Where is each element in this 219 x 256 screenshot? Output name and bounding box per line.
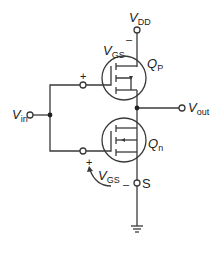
qp-gate [86,66,111,85]
qn-gate [86,131,111,151]
source-terminal[interactable] [134,180,140,186]
qp-gate-terminal[interactable] [80,82,86,88]
vout-terminal[interactable] [179,105,185,111]
qp-label: QP [147,56,163,73]
output-junction-dot [135,106,140,111]
minus-top-label: – [126,33,133,45]
qn-label: Qn [148,136,163,153]
vgs-bottom-label: VGS [98,168,120,185]
ground-icon [131,226,143,232]
qn-gate-terminal[interactable] [80,148,86,154]
plus-bottom-label: + [86,156,92,168]
cmos-inverter-diagram: VDD – VGS QP + Vout Vin Qn + VGS – S [0,0,219,256]
source-label: S [142,176,151,191]
plus-top-label: + [80,70,86,82]
input-junction-dot [48,113,53,118]
vdd-label: VDD [129,10,151,27]
vin-terminal[interactable] [27,112,33,118]
input-rail [50,85,80,151]
vout-label: Vout [188,100,210,117]
qn-arrow-icon [121,138,125,142]
vin-label: Vin [12,107,28,124]
vgs-top-label: VGS [103,43,125,60]
minus-bottom-label: – [123,178,130,190]
vdd-terminal[interactable] [134,27,140,33]
